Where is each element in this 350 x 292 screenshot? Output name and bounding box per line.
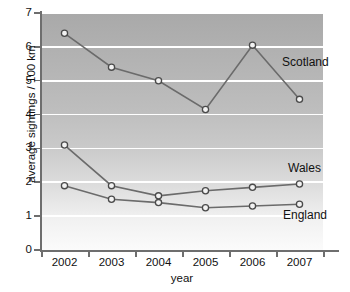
- data-point-wales-2007: [296, 181, 302, 187]
- data-point-wales-2006: [249, 184, 255, 190]
- x-tick-label-2004: 2004: [139, 256, 179, 268]
- x-tick-label-2007: 2007: [280, 256, 320, 268]
- x-tick-2: [135, 251, 137, 257]
- data-point-wales-2002: [61, 142, 67, 148]
- x-tick-label-2003: 2003: [92, 256, 132, 268]
- x-tick-3: [182, 251, 184, 257]
- x-tick-0: [41, 251, 43, 257]
- plot-area: [41, 13, 323, 250]
- y-axis-title: average sightings / 100 km: [25, 34, 37, 194]
- x-tick-1: [88, 251, 90, 257]
- y-tick-7: [34, 12, 40, 14]
- y-tick-label-0: 0: [10, 244, 32, 256]
- data-point-wales-2005: [202, 188, 208, 194]
- x-tick-label-2002: 2002: [45, 256, 85, 268]
- series-line-scotland: [65, 33, 300, 109]
- data-point-scotland-2004: [155, 78, 161, 84]
- series-layer: [41, 13, 323, 250]
- series-line-wales: [65, 145, 300, 196]
- data-point-scotland-2005: [202, 106, 208, 112]
- data-point-scotland-2006: [249, 42, 255, 48]
- y-axis-line: [40, 11, 42, 252]
- data-point-scotland-2003: [108, 64, 114, 70]
- series-line-england: [65, 186, 300, 208]
- data-point-wales-2003: [108, 183, 114, 189]
- data-point-england-2004: [155, 200, 161, 206]
- data-point-wales-2004: [155, 193, 161, 199]
- x-tick-5: [276, 251, 278, 257]
- y-tick-0: [34, 249, 40, 251]
- line-chart: 01234567 200220032004200520062007 averag…: [0, 0, 350, 292]
- data-point-scotland-2007: [296, 96, 302, 102]
- data-point-england-2002: [61, 183, 67, 189]
- series-label-wales: Wales: [288, 162, 321, 174]
- data-point-england-2005: [202, 205, 208, 211]
- x-tick-6: [323, 251, 325, 257]
- series-label-england: England: [283, 209, 327, 221]
- data-point-england-2003: [108, 196, 114, 202]
- data-point-scotland-2002: [61, 30, 67, 36]
- y-tick-1: [34, 215, 40, 217]
- x-tick-label-2005: 2005: [186, 256, 226, 268]
- x-tick-4: [229, 251, 231, 257]
- y-axis-title-holder: average sightings / 100 km: [0, 0, 20, 240]
- x-tick-label-2006: 2006: [233, 256, 273, 268]
- data-point-england-2006: [249, 203, 255, 209]
- x-axis-line: [40, 250, 339, 252]
- x-axis-title: year: [41, 272, 323, 284]
- data-point-england-2007: [296, 201, 302, 207]
- series-label-scotland: Scotland: [282, 56, 329, 68]
